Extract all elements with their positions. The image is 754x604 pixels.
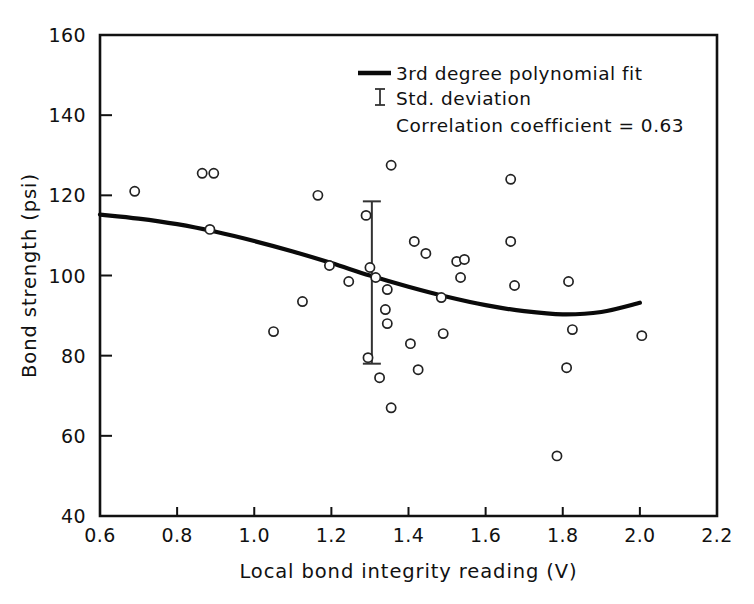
data-point <box>406 339 415 348</box>
y-tick-label: 40 <box>61 505 86 527</box>
data-point <box>568 325 577 334</box>
x-tick-label: 2.2 <box>701 524 732 546</box>
data-point <box>460 255 469 264</box>
legend-fit-label: 3rd degree polynomial fit <box>396 63 643 84</box>
data-point <box>198 169 207 178</box>
data-point <box>387 161 396 170</box>
x-axis-tick-labels: 0.60.81.01.21.41.61.82.02.2 <box>84 524 732 546</box>
data-point <box>298 297 307 306</box>
data-point <box>383 319 392 328</box>
data-point <box>510 281 519 290</box>
data-point <box>375 373 384 382</box>
data-point <box>325 261 334 270</box>
data-point <box>437 293 446 302</box>
data-point <box>205 225 214 234</box>
data-point <box>456 273 465 282</box>
data-point <box>269 327 278 336</box>
data-point <box>361 211 370 220</box>
y-tick-label: 100 <box>49 265 86 287</box>
x-tick-label: 1.8 <box>547 524 578 546</box>
x-tick-label: 2.0 <box>624 524 655 546</box>
x-tick-label: 1.0 <box>239 524 270 546</box>
y-tick-label: 80 <box>61 345 86 367</box>
data-point <box>209 169 218 178</box>
data-point <box>381 305 390 314</box>
x-tick-label: 0.6 <box>84 524 115 546</box>
data-point <box>383 285 392 294</box>
data-point <box>130 187 139 196</box>
data-point <box>313 191 322 200</box>
figure-container: 0.60.81.01.21.41.61.82.02.2 406080100120… <box>0 0 754 604</box>
data-point <box>439 329 448 338</box>
data-point <box>365 263 374 272</box>
y-tick-label: 140 <box>49 104 86 126</box>
data-point <box>410 237 419 246</box>
y-tick-label: 160 <box>49 24 86 46</box>
data-point <box>421 249 430 258</box>
data-point <box>371 273 380 282</box>
data-point <box>363 353 372 362</box>
y-axis-title: Bond strength (psi) <box>18 173 41 378</box>
data-point <box>637 331 646 340</box>
x-tick-label: 1.4 <box>393 524 424 546</box>
x-tick-label: 1.2 <box>316 524 347 546</box>
x-axis-title: Local bond integrity reading (V) <box>239 560 577 583</box>
y-tick-label: 60 <box>61 425 86 447</box>
y-tick-label: 120 <box>49 184 86 206</box>
data-point <box>552 451 561 460</box>
data-point <box>564 277 573 286</box>
data-point <box>344 277 353 286</box>
legend-std-label: Std. deviation <box>396 88 532 109</box>
x-tick-label: 1.6 <box>470 524 501 546</box>
legend-correlation-label: Correlation coefficient = 0.63 <box>396 115 684 136</box>
data-point <box>387 403 396 412</box>
data-point <box>414 365 423 374</box>
data-point <box>506 175 515 184</box>
scatter-plot: 0.60.81.01.21.41.61.82.02.2 406080100120… <box>0 0 754 604</box>
data-point <box>506 237 515 246</box>
x-tick-label: 0.8 <box>161 524 192 546</box>
data-point <box>562 363 571 372</box>
